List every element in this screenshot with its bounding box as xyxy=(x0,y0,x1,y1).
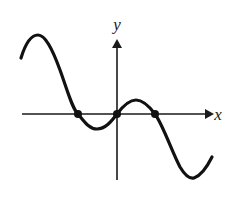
x-axis-arrowhead xyxy=(205,109,214,119)
x-axis-label: x xyxy=(213,105,222,124)
y-axis-label: y xyxy=(111,15,121,34)
marked-point-root-left xyxy=(74,110,82,118)
y-axis-arrowhead xyxy=(112,39,122,48)
graph-canvas: x y xyxy=(0,0,237,203)
math-graph-figure: x y xyxy=(0,0,237,203)
marked-point-root-right xyxy=(151,110,159,118)
marked-point-root-origin xyxy=(113,110,121,118)
